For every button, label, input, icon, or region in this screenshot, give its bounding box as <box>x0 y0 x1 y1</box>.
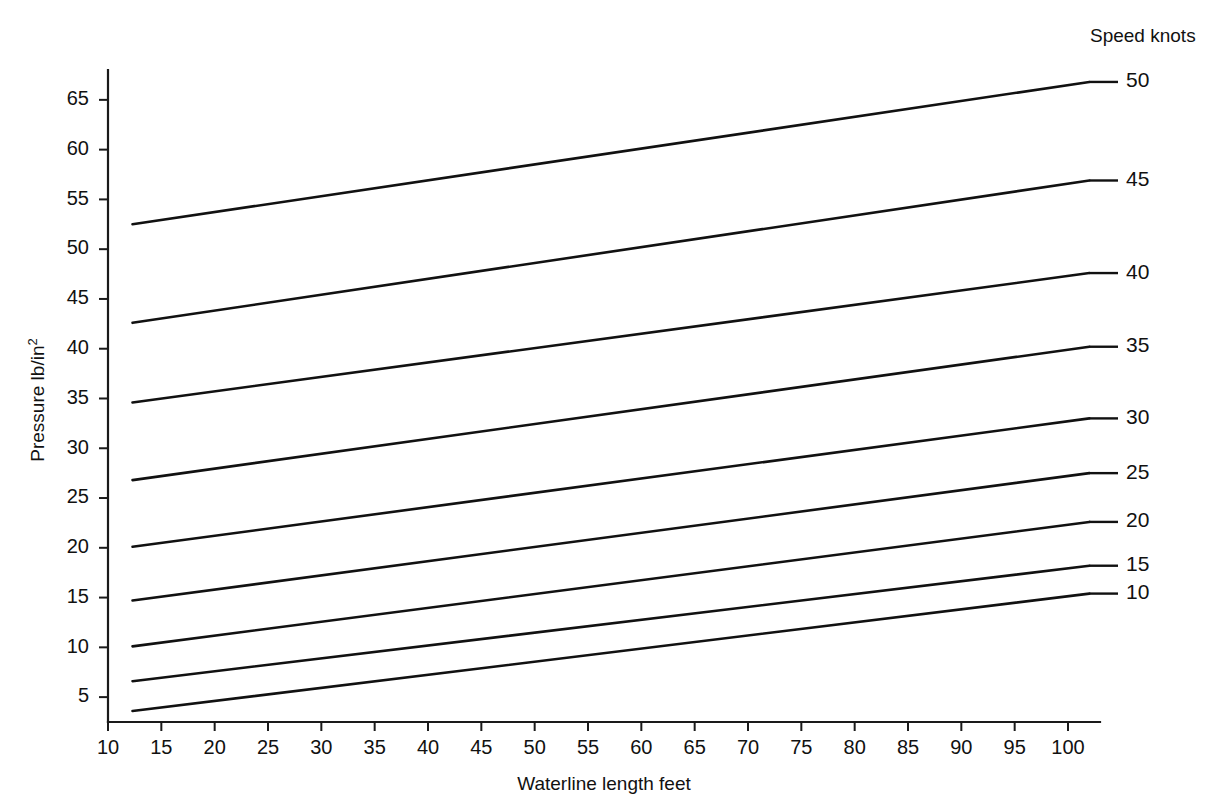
y-tick-label-25: 25 <box>67 485 89 507</box>
x-tick-label-35: 35 <box>364 736 386 758</box>
x-tick-label-45: 45 <box>470 736 492 758</box>
series-label-35kt: 35 <box>1126 333 1149 356</box>
x-tick-label-95: 95 <box>1004 736 1026 758</box>
x-tick-label-25: 25 <box>257 736 279 758</box>
x-tick-label-50: 50 <box>524 736 546 758</box>
series-line-10kt <box>133 594 1090 711</box>
y-axis-title-group: Pressure lb/in2 <box>25 338 48 461</box>
x-tick-label-100: 100 <box>1051 736 1084 758</box>
y-tick-label-65: 65 <box>67 87 89 109</box>
x-tick-label-55: 55 <box>577 736 599 758</box>
x-tick-label-10: 10 <box>97 736 119 758</box>
series-label-50kt: 50 <box>1126 68 1149 91</box>
chart-canvas: 5101520253035404550556065 10152025303540… <box>0 0 1208 811</box>
data-series-group <box>133 82 1090 711</box>
y-tick-label-40: 40 <box>67 336 89 358</box>
series-label-45kt: 45 <box>1126 167 1149 190</box>
x-tick-label-15: 15 <box>150 736 172 758</box>
series-line-25kt <box>133 473 1090 600</box>
legend-title: Speed knots <box>1090 25 1196 46</box>
y-tick-label-50: 50 <box>67 236 89 258</box>
x-axis-tick-labels: 101520253035404550556065707580859095100 <box>97 736 1085 758</box>
y-tick-label-5: 5 <box>78 684 89 706</box>
series-line-30kt <box>133 418 1090 546</box>
x-tick-label-70: 70 <box>737 736 759 758</box>
y-axis-ticks <box>99 100 108 697</box>
x-tick-label-60: 60 <box>630 736 652 758</box>
x-tick-label-90: 90 <box>950 736 972 758</box>
x-tick-label-85: 85 <box>897 736 919 758</box>
y-axis-title: Pressure lb/in2 <box>25 338 48 461</box>
x-tick-label-20: 20 <box>204 736 226 758</box>
y-tick-label-45: 45 <box>67 286 89 308</box>
series-label-25kt: 25 <box>1126 460 1149 483</box>
series-label-15kt: 15 <box>1126 552 1149 575</box>
series-label-20kt: 20 <box>1126 508 1149 531</box>
y-tick-label-60: 60 <box>67 137 89 159</box>
x-tick-label-30: 30 <box>310 736 332 758</box>
y-tick-label-10: 10 <box>67 635 89 657</box>
y-tick-label-30: 30 <box>67 436 89 458</box>
pressure-vs-waterline-length-chart: 5101520253035404550556065 10152025303540… <box>0 0 1208 811</box>
x-axis-title: Waterline length feet <box>517 773 691 794</box>
x-axis-ticks <box>108 722 1068 731</box>
series-leader-lines <box>1089 82 1118 594</box>
series-end-labels: 504540353025201510 <box>1126 68 1149 603</box>
x-tick-label-65: 65 <box>684 736 706 758</box>
series-label-30kt: 30 <box>1126 405 1149 428</box>
x-tick-label-80: 80 <box>844 736 866 758</box>
series-line-35kt <box>133 347 1090 480</box>
series-label-40kt: 40 <box>1126 260 1149 283</box>
y-tick-label-35: 35 <box>67 386 89 408</box>
y-tick-label-15: 15 <box>67 585 89 607</box>
y-axis-tick-labels: 5101520253035404550556065 <box>67 87 89 706</box>
y-tick-label-20: 20 <box>67 535 89 557</box>
series-label-10kt: 10 <box>1126 580 1149 603</box>
x-tick-label-75: 75 <box>790 736 812 758</box>
y-tick-label-55: 55 <box>67 187 89 209</box>
series-line-40kt <box>133 273 1090 402</box>
x-tick-label-40: 40 <box>417 736 439 758</box>
